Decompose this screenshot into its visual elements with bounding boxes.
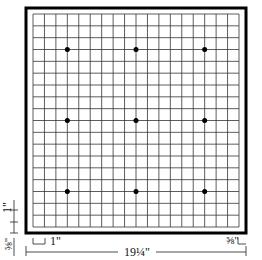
margin-width-label: ⅝" xyxy=(226,234,239,246)
go-board-diagram xyxy=(0,0,262,260)
margin-height-label: ⅝" xyxy=(2,238,14,251)
cell-width-label: 1" xyxy=(50,234,61,249)
board-width-label: 19¼" xyxy=(124,245,150,260)
cell-height-label: 1" xyxy=(0,202,15,213)
